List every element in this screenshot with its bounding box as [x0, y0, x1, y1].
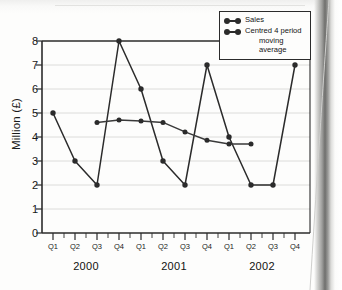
legend-label-moving-average-wrap: Centred 4 period moving average	[245, 26, 307, 55]
chart-legend: Sales Centred 4 period moving average	[219, 11, 311, 60]
series-moving-average	[95, 118, 254, 147]
legend-marker-sales-icon	[224, 16, 242, 25]
x-tick-2000-q1: Q1	[43, 243, 63, 251]
year-label-2002: 2002	[232, 261, 292, 272]
x-tick-2002-q3: Q3	[263, 243, 283, 251]
legend-item-sales: Sales	[224, 15, 307, 25]
y-axis-ticks	[36, 41, 42, 233]
x-tick-2002-q2: Q2	[241, 243, 261, 251]
legend-label-sales: Sales	[245, 15, 264, 25]
x-tick-2002-q1: Q1	[219, 243, 239, 251]
year-label-2000: 2000	[56, 261, 116, 272]
x-tick-2000-q3: Q3	[87, 243, 107, 251]
sales-line-chart: Million (£) 8 7 6 5 4 3 2 1 0	[0, 0, 342, 290]
x-tick-2000-q4: Q4	[109, 243, 129, 251]
x-tick-2001-q3: Q3	[175, 243, 195, 251]
x-tick-2002-q4: Q4	[285, 243, 305, 251]
legend-item-moving-average: Centred 4 period moving average	[224, 26, 307, 55]
legend-marker-moving-average-icon	[224, 27, 242, 36]
x-tick-2001-q2: Q2	[153, 243, 173, 251]
year-label-2001: 2001	[144, 261, 204, 272]
gridlines	[42, 65, 310, 209]
x-tick-2001-q1: Q1	[131, 243, 151, 251]
x-axis-ticks	[53, 233, 295, 240]
x-tick-2001-q4: Q4	[197, 243, 217, 251]
legend-label-moving-average-line2: moving average	[245, 36, 307, 55]
legend-label-moving-average-line1: Centred 4 period	[245, 26, 302, 35]
x-tick-2000-q2: Q2	[65, 243, 85, 251]
